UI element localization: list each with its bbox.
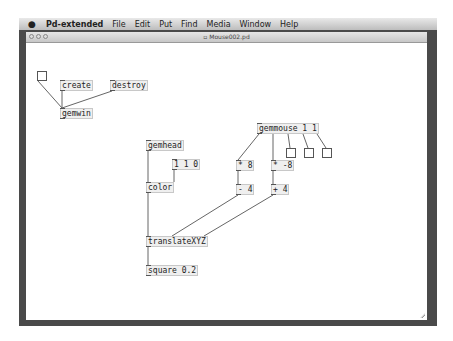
obj-gemwin[interactable]: gemwin bbox=[60, 108, 93, 119]
obj-multiply-neg8[interactable]: * -8 bbox=[271, 160, 294, 171]
menu-put[interactable]: Put bbox=[159, 20, 172, 29]
bang-toggle[interactable] bbox=[37, 71, 47, 81]
bang-3[interactable] bbox=[322, 148, 332, 158]
menu-edit[interactable]: Edit bbox=[135, 20, 151, 29]
obj-add-4[interactable]: + 4 bbox=[271, 184, 289, 195]
obj-square[interactable]: square 0.2 bbox=[146, 265, 198, 276]
obj-color[interactable]: color bbox=[146, 182, 174, 193]
menu-window[interactable]: Window bbox=[240, 20, 272, 29]
patch-window: ▫ Mouse002.pd c bbox=[26, 32, 427, 320]
menu-bar: ● Pd-extended File Edit Put Find Media W… bbox=[19, 18, 437, 30]
obj-translatexyz[interactable]: translateXYZ bbox=[146, 236, 208, 247]
menu-file[interactable]: File bbox=[112, 20, 125, 29]
menu-find[interactable]: Find bbox=[181, 20, 197, 29]
title-bar[interactable]: ▫ Mouse002.pd bbox=[26, 32, 427, 43]
patch-canvas[interactable]: create destroy gemwin gemhead 1 1 0 colo… bbox=[26, 43, 427, 320]
menu-app-name[interactable]: Pd-extended bbox=[46, 20, 103, 29]
bang-2[interactable] bbox=[304, 148, 314, 158]
bang-1[interactable] bbox=[286, 148, 296, 158]
msg-destroy[interactable]: destroy bbox=[110, 80, 148, 91]
obj-gemhead[interactable]: gemhead bbox=[146, 140, 184, 151]
obj-multiply-8[interactable]: * 8 bbox=[236, 160, 254, 171]
close-button[interactable] bbox=[29, 34, 34, 39]
msg-1-1-0[interactable]: 1 1 0 bbox=[172, 159, 200, 170]
obj-gemmouse[interactable]: gemmouse 1 1 bbox=[257, 123, 319, 134]
menu-help[interactable]: Help bbox=[280, 20, 298, 29]
window-title: Mouse002.pd bbox=[209, 33, 249, 40]
obj-subtract-4[interactable]: - 4 bbox=[236, 184, 254, 195]
msg-create[interactable]: create bbox=[60, 80, 93, 91]
apple-icon[interactable]: ● bbox=[28, 19, 40, 29]
zoom-button[interactable] bbox=[43, 34, 48, 39]
minimize-button[interactable] bbox=[36, 34, 41, 39]
menu-media[interactable]: Media bbox=[207, 20, 231, 29]
resize-handle[interactable] bbox=[419, 312, 425, 318]
